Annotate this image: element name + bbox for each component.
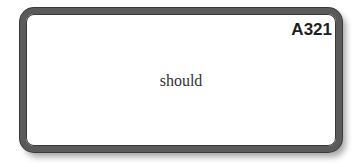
flashcard: A321 should bbox=[20, 8, 342, 152]
card-code-label: A321 bbox=[291, 20, 332, 40]
card-word: should bbox=[26, 72, 336, 90]
